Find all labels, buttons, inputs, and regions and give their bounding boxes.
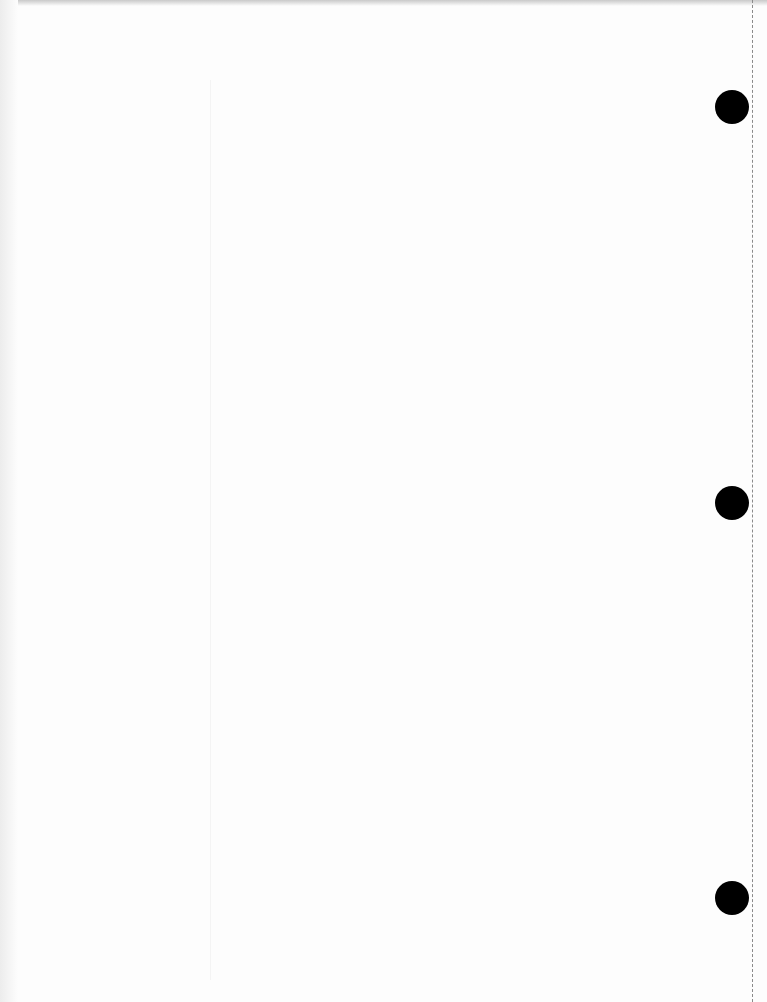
faint-margin-line <box>210 80 211 980</box>
blank-page <box>0 0 767 1002</box>
scan-left-shadow <box>0 0 18 1002</box>
punch-hole-bottom <box>715 881 749 915</box>
perforation-line <box>752 0 753 1002</box>
punch-hole-middle <box>715 486 749 520</box>
scan-top-shadow <box>0 0 767 6</box>
punch-hole-top <box>715 90 749 124</box>
